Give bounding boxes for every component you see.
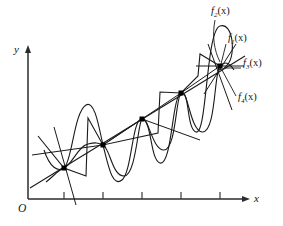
- y-axis-label: y: [14, 44, 19, 55]
- function-label-f2: f2(x): [211, 6, 230, 19]
- origin-label: O: [18, 203, 26, 215]
- function-label-f3-arg: (x): [249, 57, 261, 68]
- node-marker-3: [140, 117, 145, 122]
- node-marker-2: [101, 143, 106, 148]
- x-axis-label: x: [254, 193, 259, 204]
- function-label-f1-arg: (x): [234, 32, 246, 43]
- function-label-f4: f4(x): [238, 92, 257, 105]
- node-marker-5: [218, 64, 223, 69]
- function-label-f2-arg: (x): [217, 5, 229, 16]
- function-label-f1: f1(x): [228, 33, 247, 46]
- node-marker-1: [62, 166, 67, 171]
- node-marker-4: [179, 91, 184, 96]
- function-label-f4-arg: (x): [244, 91, 256, 102]
- function-label-f3: f3(x): [243, 58, 262, 71]
